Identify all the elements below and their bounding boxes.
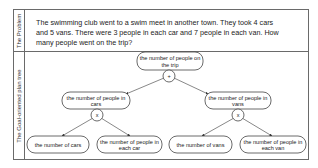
- multiply-operator-icon: x: [237, 112, 240, 118]
- right-mid-node: the number of people in vans: [205, 92, 271, 109]
- plus-operator-icon: +: [167, 73, 170, 79]
- leaf-each-van-line2: each van: [262, 145, 285, 151]
- left-mid-node: the number of people in cars: [62, 92, 130, 109]
- left-node-line2: cars: [91, 101, 102, 107]
- left-node-line1: the number of people in: [67, 95, 126, 101]
- leaf-node-people-each-van: the number of people in each van: [240, 136, 306, 153]
- right-node-line1: the number of people in: [209, 95, 268, 101]
- left-operator-circle: x: [91, 109, 103, 121]
- leaf-each-car-line1: the number of people in: [100, 139, 159, 145]
- leaf-cars-text: the number of cars: [35, 142, 82, 148]
- right-node-line2: vans: [232, 101, 244, 107]
- leaf-vans-text: the number of vans: [177, 142, 225, 148]
- multiply-operator-icon: x: [96, 112, 99, 118]
- goal-plan-tree: the number of people on the trip + the n…: [0, 0, 318, 168]
- root-node: the number of people on the trip: [137, 52, 203, 70]
- leaf-each-car-line2: each car: [119, 145, 141, 151]
- root-node-line2: the trip: [161, 62, 178, 68]
- leaf-node-cars: the number of cars: [27, 136, 89, 153]
- leaf-each-van-line1: the number of people in: [244, 139, 303, 145]
- right-operator-circle: x: [232, 109, 244, 121]
- leaf-node-people-each-car: the number of people in each car: [97, 136, 162, 153]
- root-node-line1: the number of people on: [140, 55, 201, 61]
- root-operator-circle: +: [163, 70, 175, 82]
- leaf-node-vans: the number of vans: [169, 136, 232, 153]
